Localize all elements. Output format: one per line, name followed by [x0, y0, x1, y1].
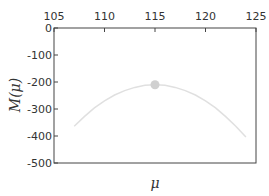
- chart: 105110115120125 0-100-200-300-400-500 μ …: [0, 0, 269, 196]
- y-tick-label: -300: [27, 103, 52, 116]
- y-tick-label: 0: [45, 22, 52, 35]
- plot-border: [54, 28, 256, 163]
- y-tick-label: -100: [27, 49, 52, 62]
- data-series: [74, 80, 246, 137]
- x-tick-label: 115: [145, 10, 166, 23]
- y-tick-label: -200: [27, 76, 52, 89]
- maximum-marker: [151, 80, 160, 89]
- x-tick-label: 110: [94, 10, 115, 23]
- x-axis-ticks: 105110115120125: [44, 10, 267, 32]
- x-tick-label: 120: [195, 10, 216, 23]
- x-tick-label: 125: [246, 10, 267, 23]
- x-axis-title: μ: [150, 175, 159, 191]
- y-tick-label: -500: [27, 157, 52, 170]
- y-axis-title: M(μ): [7, 78, 23, 113]
- plot-frame: [54, 28, 256, 163]
- y-tick-label: -400: [27, 130, 52, 143]
- y-axis-ticks: 0-100-200-300-400-500: [27, 22, 58, 170]
- series-line: [74, 85, 246, 137]
